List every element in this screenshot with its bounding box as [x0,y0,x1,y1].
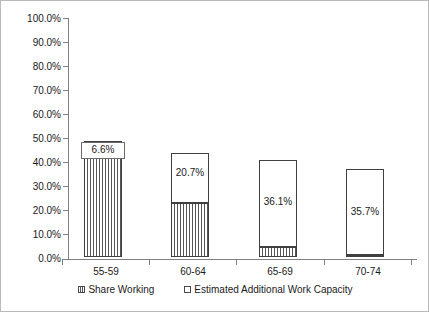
x-axis-category-label: 60-64 [149,266,237,278]
y-tick-label: 0.0% [5,254,61,264]
chart-container: 100.0% 90.0% 80.0% 70.0% 60.0% 50.0% 40.… [0,0,429,312]
y-tick-label: 90.0% [5,38,61,48]
bar-segment-work-capacity [171,153,209,203]
empty-square-icon [184,286,191,293]
hatched-square-icon [78,286,85,293]
legend-item-work-capacity: Estimated Additional Work Capacity [184,284,352,295]
x-axis-tick [62,260,63,265]
x-axis-category-label: 70-74 [324,266,412,278]
y-tick-label: 80.0% [5,62,61,72]
x-axis-tick [236,260,237,265]
x-axis-category-label: 65-69 [236,266,324,278]
chart-legend: Share Working Estimated Additional Work … [1,284,429,295]
y-tick-label: 40.0% [5,158,61,168]
bar-segment-share-working [84,157,122,257]
y-tick-label: 10.0% [5,230,61,240]
bar-segment-share-working [259,247,297,257]
y-tick-label: 100.0% [5,14,61,24]
bar-segment-work-capacity [346,169,384,255]
y-axis-line [68,18,69,260]
y-tick-label: 20.0% [5,206,61,216]
bar-segment-share-working [171,203,209,257]
x-axis-tick [324,260,325,265]
legend-item-share-working: Share Working [78,284,154,295]
legend-label: Estimated Additional Work Capacity [194,284,352,295]
x-axis-tick [411,260,412,265]
x-axis-category-label: 55-59 [62,266,150,278]
data-label-callout: 6.6% [81,142,125,159]
y-tick-label: 30.0% [5,182,61,192]
y-tick-label: 70.0% [5,86,61,96]
y-tick-label: 50.0% [5,134,61,144]
legend-label: Share Working [88,284,154,295]
y-axis-labels: 100.0% 90.0% 80.0% 70.0% 60.0% 50.0% 40.… [1,1,61,312]
x-axis-tick [149,260,150,265]
bar-segment-share-working [346,255,384,257]
y-tick-label: 60.0% [5,110,61,120]
bar-segment-work-capacity [259,160,297,247]
x-axis-line [62,259,417,260]
